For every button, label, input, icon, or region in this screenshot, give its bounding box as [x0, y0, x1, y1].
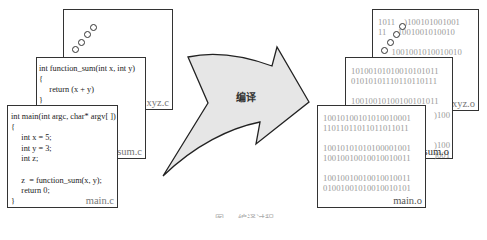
compile-label: 编译 [236, 89, 256, 104]
ellipsis-dot [387, 39, 394, 46]
ellipsis-dot [393, 31, 400, 38]
file-name-xyz-o: xyz.o [452, 98, 475, 109]
figure-caption: 图 ... 编译过程 [215, 212, 274, 218]
binary-main: 10010100101010010001 1101101101101101101… [323, 113, 411, 193]
file-name-main-o: main.o [393, 195, 422, 206]
ellipsis-dot [381, 47, 388, 54]
binary-sum: 10100101010010101011 0101010111011011011… [351, 66, 439, 106]
file-name-sum-o: sum.o [424, 146, 449, 157]
object-file-main: 10010100101010010001 1101101101101101101… [317, 105, 426, 208]
ellipsis-dot [399, 23, 406, 30]
